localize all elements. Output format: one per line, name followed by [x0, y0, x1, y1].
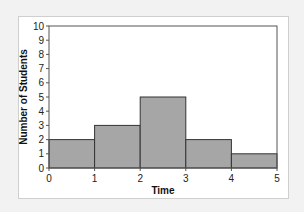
histogram-bar [186, 140, 232, 168]
y-tick-label: 7 [38, 63, 44, 74]
y-axis-label: Number of Students [18, 49, 29, 145]
y-tick-label: 4 [38, 106, 44, 117]
y-axis-ticks: 012345678910 [33, 21, 49, 174]
y-tick-label: 2 [38, 134, 44, 145]
y-tick-label: 8 [38, 49, 44, 60]
x-tick-label: 5 [274, 173, 280, 184]
y-tick-label: 3 [38, 120, 44, 131]
y-tick-label: 10 [33, 21, 45, 32]
histogram-bar [95, 125, 141, 168]
x-tick-label: 2 [137, 173, 143, 184]
y-tick-label: 1 [38, 148, 44, 159]
x-axis-label: Time [151, 185, 175, 196]
histogram-bar [231, 154, 277, 168]
histogram-chart: 012345678910 012345 Time Number of Stude… [0, 0, 304, 212]
y-tick-label: 9 [38, 35, 44, 46]
y-tick-label: 5 [38, 92, 44, 103]
histogram-bar [140, 97, 186, 168]
x-axis-ticks: 012345 [46, 168, 280, 184]
y-tick-label: 6 [38, 77, 44, 88]
x-tick-label: 4 [229, 173, 235, 184]
x-tick-label: 3 [183, 173, 189, 184]
x-tick-label: 0 [46, 173, 52, 184]
bars [49, 97, 277, 168]
histogram-bar [49, 140, 95, 168]
y-tick-label: 0 [38, 163, 44, 174]
x-tick-label: 1 [92, 173, 98, 184]
